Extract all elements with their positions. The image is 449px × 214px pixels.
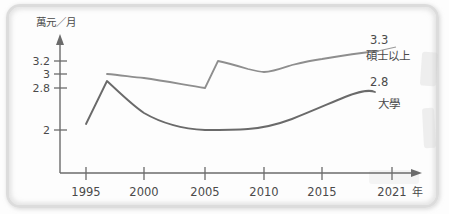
x-tick-label-2021: 2021: [377, 185, 406, 199]
y-tick-label-2-8: 2.8: [33, 82, 51, 95]
chart-figure: 萬元／月 3.2 3 2.8 2 1995 2000 2005 2010 201…: [0, 0, 449, 214]
series-line-university: [86, 81, 375, 130]
series-line-masters: [107, 51, 378, 88]
x-tick-label-2000: 2000: [129, 185, 158, 199]
series-name-university: 大學: [378, 97, 400, 111]
x-tick-label-2015: 2015: [307, 185, 336, 199]
series-name-masters: 碩士以上: [366, 49, 410, 63]
y-tick-label-3: 3: [43, 68, 50, 81]
y-axis-arrow-icon: [56, 34, 64, 45]
x-axis: [60, 167, 422, 180]
series-end-value-university: 2.8: [370, 75, 388, 89]
x-tick-label-2010: 2010: [249, 185, 278, 199]
x-tick-label-2005: 2005: [190, 185, 219, 199]
y-tick-label-3-2: 3.2: [33, 55, 51, 68]
x-tick-label-1995: 1995: [71, 185, 100, 199]
y-axis: [54, 34, 67, 173]
y-axis-label: 萬元／月: [36, 16, 76, 28]
line-chart: 萬元／月 3.2 3 2.8 2 1995 2000 2005 2010 201…: [0, 0, 449, 214]
y-tick-label-2: 2: [43, 124, 50, 137]
x-axis-unit-label: 年: [412, 185, 423, 199]
x-axis-arrow-icon: [411, 169, 422, 177]
series-end-value-masters: 3.3: [370, 33, 388, 47]
